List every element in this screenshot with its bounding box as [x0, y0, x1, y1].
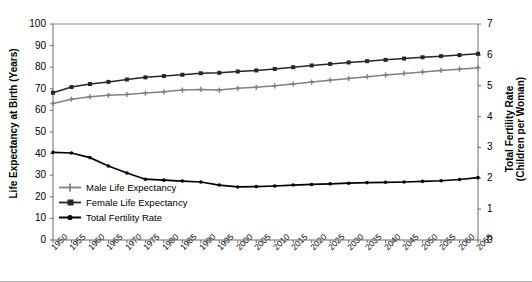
legend-item: Female Life Expectancy [58, 195, 187, 210]
data-point [162, 74, 166, 78]
legend-marker-icon [58, 212, 82, 223]
data-point [88, 156, 92, 160]
data-point [125, 171, 129, 175]
data-point [199, 71, 203, 75]
data-point [69, 85, 73, 89]
plot-area [0, 0, 532, 282]
data-point [273, 184, 277, 188]
data-point [458, 178, 462, 182]
data-point [421, 180, 425, 184]
data-point [70, 151, 74, 155]
data-point [51, 91, 55, 95]
data-point [51, 151, 55, 155]
legend-marker-icon [58, 182, 82, 193]
data-point [439, 54, 443, 58]
data-point [384, 58, 388, 62]
data-point [402, 180, 406, 184]
series-male-life-expectancy [50, 65, 480, 106]
data-point [310, 63, 314, 67]
data-point [402, 57, 406, 61]
data-point [291, 183, 295, 187]
data-point [476, 52, 480, 56]
data-point [106, 80, 110, 84]
data-point [365, 181, 369, 185]
legend-label: Female Life Expectancy [86, 197, 187, 208]
data-point [291, 65, 295, 69]
legend-item: Male Life Expectancy [58, 180, 187, 195]
legend-label: Male Life Expectancy [86, 182, 176, 193]
data-point [236, 70, 240, 74]
series-line [53, 68, 478, 104]
data-point [199, 180, 203, 184]
data-point [476, 176, 480, 180]
data-point [180, 73, 184, 77]
data-point [107, 164, 111, 168]
data-point [254, 68, 258, 72]
legend-item: Total Fertility Rate [58, 210, 187, 225]
data-point [365, 59, 369, 63]
data-point [347, 60, 351, 64]
data-point [217, 71, 221, 75]
legend-label: Total Fertility Rate [86, 212, 162, 223]
legend-marker-icon [58, 197, 82, 208]
data-point [328, 62, 332, 66]
data-point [88, 82, 92, 86]
data-point [143, 75, 147, 79]
data-point [310, 183, 314, 187]
chart-container: Life Expectancy at Birth (Years) Total F… [0, 0, 532, 282]
data-point [218, 183, 222, 187]
data-point [421, 55, 425, 59]
chart-legend: Male Life ExpectancyFemale Life Expectan… [58, 180, 187, 225]
data-point [439, 179, 443, 183]
data-point [125, 78, 129, 82]
data-point [458, 53, 462, 57]
data-point [347, 181, 351, 185]
data-point [254, 185, 258, 189]
data-point [384, 181, 388, 185]
data-point [236, 185, 240, 189]
data-point [328, 182, 332, 186]
data-point [273, 67, 277, 71]
